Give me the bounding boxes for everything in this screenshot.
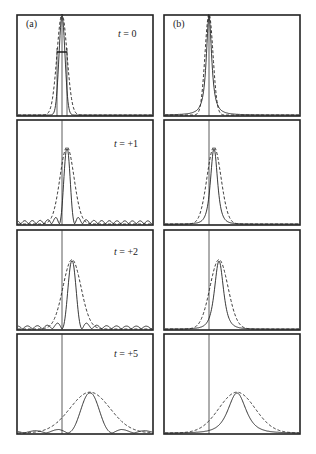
profile-curve-solid (165, 261, 299, 329)
panel-frame (17, 120, 153, 225)
profile-curve-dashed (18, 147, 152, 224)
profile-curve-dashed (165, 392, 299, 433)
panel-frame (17, 230, 153, 330)
profile-curve-dashed (165, 147, 299, 224)
panel-frame (164, 15, 300, 116)
profile-curve-solid (18, 393, 152, 433)
profile-curve-solid (165, 393, 299, 433)
panel-frame (164, 120, 300, 225)
profile-curve-solid (18, 261, 152, 329)
time-label-t0: t = 0 (118, 28, 136, 39)
profile-curve-solid (165, 16, 299, 115)
profile-curve-solid (18, 148, 152, 224)
profile-curve-dashed (18, 260, 152, 329)
panel-frame (164, 334, 300, 434)
time-label-t2: t = +2 (114, 246, 138, 257)
panel-label-a: (a) (26, 18, 37, 29)
panel-label-b: (b) (173, 18, 185, 29)
figure-canvas (0, 0, 316, 454)
panel-frame (164, 230, 300, 330)
profile-curve-dashed (165, 260, 299, 329)
profile-curve-solid (165, 148, 299, 224)
time-label-t1: t = +1 (114, 138, 138, 149)
time-label-t5: t = +5 (114, 348, 138, 359)
profile-curve-dashed (165, 14, 299, 115)
